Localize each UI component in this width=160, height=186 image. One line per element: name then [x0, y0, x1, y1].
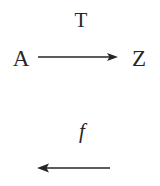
arrow-right-a-to-z — [38, 53, 118, 61]
diagram-canvas: A Z T f — [0, 0, 160, 186]
edge-label-f: f — [79, 121, 85, 142]
node-label-z: Z — [132, 47, 146, 70]
arrowhead-left — [37, 164, 49, 173]
node-label-a: A — [13, 47, 30, 70]
arrow-left-f — [37, 164, 110, 173]
edge-label-t: T — [75, 10, 88, 31]
arrowhead-right — [107, 53, 118, 61]
